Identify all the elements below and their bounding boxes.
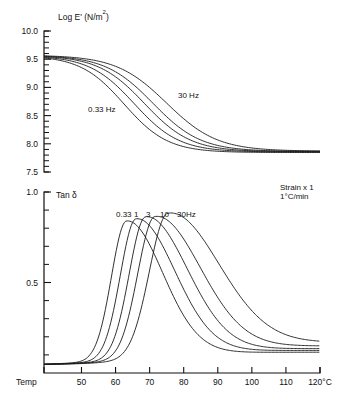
low-frequency-label: 0.33 Hz bbox=[88, 105, 116, 114]
modulus-curve bbox=[44, 57, 320, 152]
dma-frequency-sweep-figure: 10.09.59.08.58.07.5Log E' (N/m2)0.33 Hz3… bbox=[0, 0, 342, 403]
frequency-label: 30Hz bbox=[177, 210, 196, 219]
annotation-layer: Strain x 11°C/min bbox=[280, 183, 314, 201]
temp-axis-tick-label: 110 bbox=[279, 377, 293, 387]
tandelta-curve bbox=[44, 217, 319, 365]
tandelta-curve bbox=[44, 221, 319, 364]
modulus-y-tick-label: 9.5 bbox=[26, 54, 38, 64]
temp-axis-title: Temp bbox=[16, 377, 37, 387]
frequency-label: 1 bbox=[134, 210, 139, 219]
high-frequency-label: 30 Hz bbox=[178, 91, 199, 100]
modulus-y-tick-label: 8.5 bbox=[26, 111, 38, 121]
modulus-y-tick-label: 9.0 bbox=[26, 82, 38, 92]
frequency-label: 3 bbox=[146, 210, 151, 219]
modulus-y-tick-label: 10.0 bbox=[21, 26, 38, 36]
temp-axis-tick-label: 90 bbox=[213, 377, 223, 387]
temperature-axis: 5060708090100110120°CTemp bbox=[16, 367, 332, 387]
temp-axis-tick-label: 120°C bbox=[308, 377, 332, 387]
chart-canvas: 10.09.59.08.58.07.5Log E' (N/m2)0.33 Hz3… bbox=[0, 0, 342, 403]
rate-note: 1°C/min bbox=[280, 192, 309, 201]
tandelta-y-tick-label: 1.0 bbox=[26, 187, 38, 197]
modulus-axis-title: Log E' (N/m2) bbox=[58, 9, 109, 22]
modulus-curve bbox=[44, 58, 320, 153]
tan-delta-panel: 1.00.5Tan δ0.33131030Hz bbox=[26, 187, 319, 373]
tandelta-y-tick-label: 0.5 bbox=[26, 278, 38, 288]
frequency-label: 10 bbox=[160, 210, 169, 219]
temp-axis-tick-label: 80 bbox=[179, 377, 189, 387]
temp-axis-tick-label: 100 bbox=[245, 377, 259, 387]
tandelta-axis-title: Tan δ bbox=[56, 190, 77, 200]
temp-axis-tick-label: 50 bbox=[77, 377, 87, 387]
temp-axis-tick-label: 70 bbox=[145, 377, 155, 387]
frequency-label: 0.33 bbox=[116, 210, 132, 219]
temp-axis-tick-label: 60 bbox=[111, 377, 121, 387]
tandelta-curve bbox=[44, 219, 319, 364]
strain-note: Strain x 1 bbox=[280, 183, 314, 192]
modulus-curve bbox=[44, 56, 320, 151]
temp-axis-line bbox=[44, 367, 320, 373]
modulus-y-axis bbox=[44, 31, 49, 172]
tandelta-curve bbox=[44, 216, 319, 364]
modulus-y-tick-label: 8.0 bbox=[26, 139, 38, 149]
log-modulus-panel: 10.09.59.08.58.07.5Log E' (N/m2)0.33 Hz3… bbox=[21, 9, 320, 177]
modulus-curve bbox=[44, 57, 320, 152]
modulus-y-tick-label: 7.5 bbox=[26, 167, 38, 177]
